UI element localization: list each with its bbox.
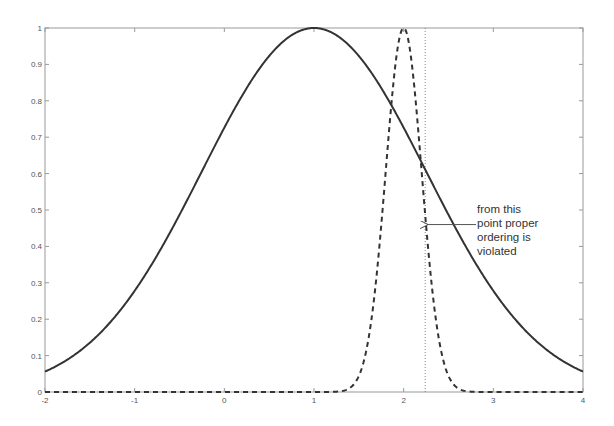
y-tick-label: 0.6 — [31, 170, 43, 179]
annotation-line-1: from this — [477, 203, 521, 215]
x-tick-label: -1 — [131, 396, 139, 405]
y-tick-label: 0.5 — [31, 206, 43, 215]
y-tick-label: 0.4 — [31, 242, 43, 251]
x-tick-label: 3 — [491, 396, 496, 405]
x-tick-label: 4 — [581, 396, 586, 405]
x-tick-label: -2 — [41, 396, 49, 405]
annotation-line-3: ordering is — [477, 231, 531, 243]
y-tick-label: 0.1 — [31, 352, 43, 361]
y-tick-label: 0.3 — [31, 279, 43, 288]
y-tick-label: 1 — [38, 24, 43, 33]
annotation-line-2: point proper — [477, 217, 539, 229]
annotation-line-4: violated — [477, 245, 517, 257]
y-tick-label: 0.7 — [31, 133, 43, 142]
x-tick-label: 1 — [312, 396, 317, 405]
y-tick-label: 0.9 — [31, 60, 43, 69]
x-tick-label: 2 — [401, 396, 406, 405]
x-tick-label: 0 — [222, 396, 227, 405]
chart: 00.10.20.30.40.50.60.70.80.91 -2-101234 … — [0, 0, 614, 426]
y-tick-label: 0.8 — [31, 97, 43, 106]
y-tick-label: 0.2 — [31, 315, 43, 324]
